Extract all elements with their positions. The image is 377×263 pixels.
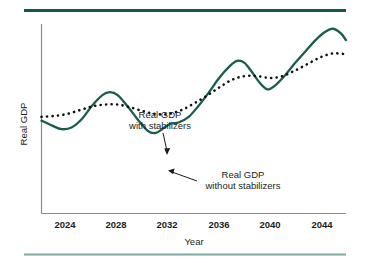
x-tick-label: 2040: [259, 219, 280, 230]
annotation-line: with stabilizers: [128, 120, 191, 131]
annotation-without-stabilizers: Real GDP without stabilizers: [168, 168, 281, 191]
x-tick-label: 2036: [208, 219, 229, 230]
x-tick-label: 2044: [311, 219, 333, 230]
x-tick-labels: 2024 2028 2032 2036 2040 2044: [54, 219, 333, 230]
annotation-line: Real GDP: [139, 109, 182, 120]
x-tick-label: 2028: [105, 219, 126, 230]
annotation-arrow-head: [164, 148, 170, 155]
x-axis-title: Year: [184, 236, 203, 247]
series-with-stabilizers: [42, 53, 347, 117]
y-axis-title: Real GDP: [18, 103, 29, 146]
x-tick-label: 2032: [156, 219, 177, 230]
annotation-arrow-head: [168, 168, 175, 174]
real-gdp-stabilizers-chart: Real GDP Year 2024 2028 2032 2036 2040 2…: [0, 0, 377, 263]
annotation-line: Real GDP: [222, 169, 265, 180]
series-without-stabilizers: [42, 29, 347, 133]
x-tick-label: 2024: [54, 219, 76, 230]
annotation-arrow-line: [172, 172, 197, 181]
figure-container: Real GDP Year 2024 2028 2032 2036 2040 2…: [0, 0, 377, 263]
annotation-arrow-line: [163, 133, 167, 151]
annotation-line: without stabilizers: [205, 180, 281, 191]
